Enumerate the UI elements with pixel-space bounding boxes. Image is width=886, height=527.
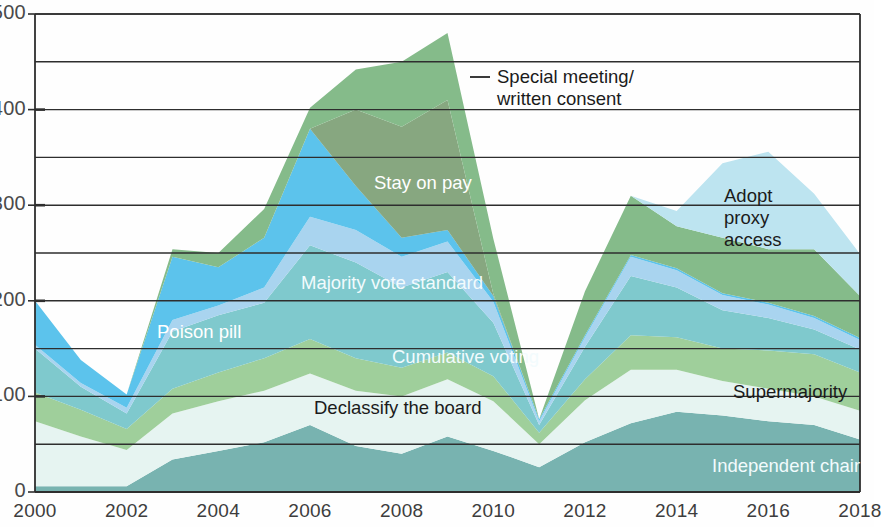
y-tick-label-200: 200 — [0, 288, 26, 311]
x-tick-label-2014: 2014 — [637, 500, 717, 522]
y-tick-label-300: 300 — [0, 192, 26, 215]
annotation-leader-line-special-meeting — [470, 76, 490, 78]
x-tick-label-2016: 2016 — [728, 500, 808, 522]
annotation-supermajority: Supermajority — [733, 381, 847, 403]
annotation-majority-vote-standard: Majority vote standard — [301, 272, 483, 294]
x-tick-label-2006: 2006 — [270, 500, 350, 522]
area-series-group — [35, 33, 860, 492]
x-tick-label-2010: 2010 — [453, 500, 533, 522]
annotation-special-meeting: Special meeting/ written consent — [497, 66, 634, 110]
annotation-independent-chair: Independent chair — [712, 455, 860, 477]
x-tick-label-2012: 2012 — [545, 500, 625, 522]
annotation-adopt-proxy-access: Adopt proxy access — [724, 185, 782, 250]
x-tick-label-2008: 2008 — [362, 500, 442, 522]
y-tick-label-0: 0 — [0, 479, 26, 502]
annotation-declassify-the-board: Declassify the board — [314, 397, 482, 419]
y-tick-label-400: 400 — [0, 97, 26, 120]
x-tick-label-2002: 2002 — [87, 500, 167, 522]
x-tick-label-2018: 2018 — [820, 500, 886, 522]
annotation-cumulative-voting: Cumulative voting — [392, 346, 539, 368]
x-tick-label-2000: 2000 — [0, 500, 75, 522]
annotation-stay-on-pay: Stay on pay — [374, 172, 472, 194]
annotation-poison-pill: Poison pill — [157, 321, 241, 343]
x-tick-label-2004: 2004 — [178, 500, 258, 522]
y-tick-label-100: 100 — [0, 383, 26, 406]
y-tick-label-500: 500 — [0, 1, 26, 24]
